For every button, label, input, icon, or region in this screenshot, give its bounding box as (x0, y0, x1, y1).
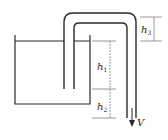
h2-label: h2 (97, 101, 107, 113)
tank (15, 35, 90, 104)
siphon-diagram: h1 h2 h3 V (0, 0, 168, 140)
velocity-label: V (137, 117, 146, 128)
h1-label: h1 (97, 61, 107, 73)
velocity-arrow-head (129, 120, 135, 127)
h3-label: h3 (141, 24, 151, 36)
